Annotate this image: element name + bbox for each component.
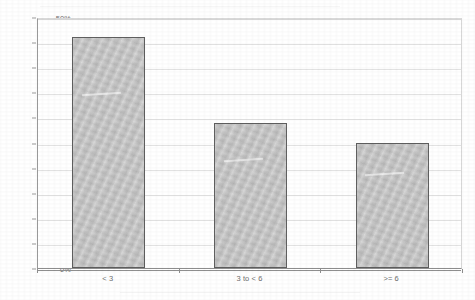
x-axis-tick-mark bbox=[179, 269, 180, 273]
y-axis-tick-mark bbox=[32, 18, 36, 19]
y-axis-tick-mark bbox=[32, 143, 36, 144]
y-axis-tick-mark bbox=[32, 43, 36, 44]
y-axis-tick-mark bbox=[32, 193, 36, 194]
x-axis-tick-label: 3 to < 6 bbox=[236, 274, 262, 283]
x-axis-tick-label: < 3 bbox=[102, 274, 113, 283]
y-axis-tick-mark bbox=[32, 218, 36, 219]
scan-smudge bbox=[40, 6, 340, 7]
x-axis-tick-mark bbox=[37, 269, 38, 273]
x-axis-labels: < 33 to < 6>= 6 bbox=[37, 274, 462, 294]
bar-chart: 0%5%10%15%20%25%30%35%40%45%50% < 33 to … bbox=[0, 0, 475, 300]
y-axis-tick-mark bbox=[32, 93, 36, 94]
y-axis-tick-mark bbox=[32, 243, 36, 244]
x-axis-tick-mark bbox=[462, 269, 463, 273]
y-axis-tick-mark bbox=[32, 118, 36, 119]
y-axis-tick-mark bbox=[32, 168, 36, 169]
y-axis-tick-mark bbox=[32, 68, 36, 69]
bar bbox=[72, 37, 145, 268]
gridline bbox=[38, 270, 461, 271]
x-axis-tick-label: >= 6 bbox=[383, 274, 398, 283]
y-axis-tick-mark bbox=[32, 269, 36, 270]
x-axis-tick-mark bbox=[320, 269, 321, 273]
y-axis: 0%5%10%15%20%25%30%35%40%45%50% bbox=[0, 18, 37, 269]
gridline bbox=[38, 19, 461, 20]
plot-area bbox=[37, 18, 462, 269]
bar bbox=[356, 143, 429, 269]
bar bbox=[214, 123, 287, 268]
